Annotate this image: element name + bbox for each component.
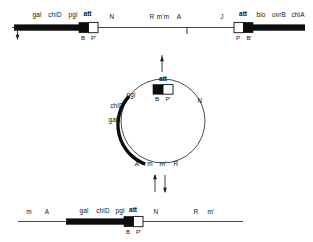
circle-label-A: A	[135, 160, 140, 167]
equilibrium-down-arrowhead	[163, 188, 167, 193]
bottom-label-m: m	[26, 208, 32, 215]
top-to-circle-arrow	[160, 55, 164, 72]
top-right-thick-bar	[253, 24, 305, 30]
circle-label-R: R	[174, 160, 179, 167]
top-label-P: P	[236, 34, 240, 41]
bottom-label-gal: gal	[79, 207, 88, 215]
top-label-mprime-m: m'm	[157, 13, 169, 20]
equilibrium-arrows	[153, 174, 167, 193]
top-label-J: J	[220, 13, 223, 20]
bottom-thick-bar	[66, 218, 124, 224]
top-label-N: N	[110, 13, 115, 20]
bottom-label-B: B	[126, 228, 130, 235]
molecular-diagram-svg: gal chlD pgl att N R m'm A J att bio uvr…	[0, 0, 313, 242]
circle-label-m: m	[147, 160, 153, 167]
bottom-attB-black-box	[124, 216, 134, 226]
top-right-attB-prime-black-box	[244, 22, 254, 32]
bottom-panel: m A gal chlD pgl att N R m' B P'	[18, 206, 243, 235]
top-label-R: R	[150, 13, 155, 20]
circle-label-att: att	[159, 75, 168, 82]
top-below-label-group: B P' P B'	[81, 34, 252, 41]
equilibrium-up-arrowhead	[153, 174, 157, 179]
circle-attB-black-box	[153, 85, 163, 95]
bottom-label-P-prime: P'	[136, 228, 141, 235]
top-label-bio: bio	[256, 11, 265, 18]
top-label-pgl: pgl	[68, 11, 77, 19]
bottom-label-pgl: pgl	[115, 207, 124, 215]
top-above-label-group: gal chlD pgl att N R m'm A J att bio uvr…	[32, 10, 305, 20]
bottom-label-att: att	[129, 206, 138, 213]
circle-label-pgl: pgl	[126, 91, 135, 99]
top-label-uvrB: uvrB	[272, 11, 286, 18]
circle-label-P-prime: P'	[165, 95, 170, 102]
bottom-label-m-prime: m'	[208, 208, 215, 215]
top-to-circle-arrowhead	[160, 56, 164, 61]
bottom-label-A: A	[45, 208, 50, 215]
middle-panel: att pgl chlD gal N B P' A m m' R	[101, 75, 205, 168]
figure-canvas: gal chlD pgl att N R m'm A J att bio uvr…	[0, 0, 313, 242]
top-left-attB-black-box	[79, 22, 89, 32]
top-label-att-right: att	[239, 10, 248, 17]
top-label-A: A	[177, 13, 182, 20]
top-left-end-arrowhead	[16, 35, 20, 40]
bottom-label-R: R	[194, 208, 199, 215]
circle-attP-prime-white-box	[163, 85, 173, 95]
top-label-P-prime: P'	[91, 34, 96, 41]
top-label-B-prime: B'	[246, 34, 251, 41]
circle-label-m-prime: m'	[160, 160, 167, 167]
circle-label-chlD: chlD	[110, 102, 124, 109]
bottom-label-N: N	[154, 208, 159, 215]
bottom-label-chlD: chlD	[96, 207, 110, 214]
top-left-thick-bar	[14, 24, 79, 30]
circle-label-B: B	[155, 95, 159, 102]
top-right-attP-white-box	[234, 22, 244, 32]
top-label-att-left: att	[83, 10, 92, 17]
circle-label-N: N	[198, 97, 203, 104]
top-left-attP-prime-white-box	[89, 22, 99, 32]
top-panel: gal chlD pgl att N R m'm A J att bio uvr…	[12, 10, 305, 41]
top-label-B: B	[81, 34, 85, 41]
bottom-attP-prime-white-box	[134, 216, 144, 226]
top-label-chlD: chlD	[48, 11, 62, 18]
top-label-chlA: chlA	[291, 11, 305, 18]
top-label-gal: gal	[32, 11, 41, 19]
circle-label-gal: gal	[108, 116, 117, 124]
